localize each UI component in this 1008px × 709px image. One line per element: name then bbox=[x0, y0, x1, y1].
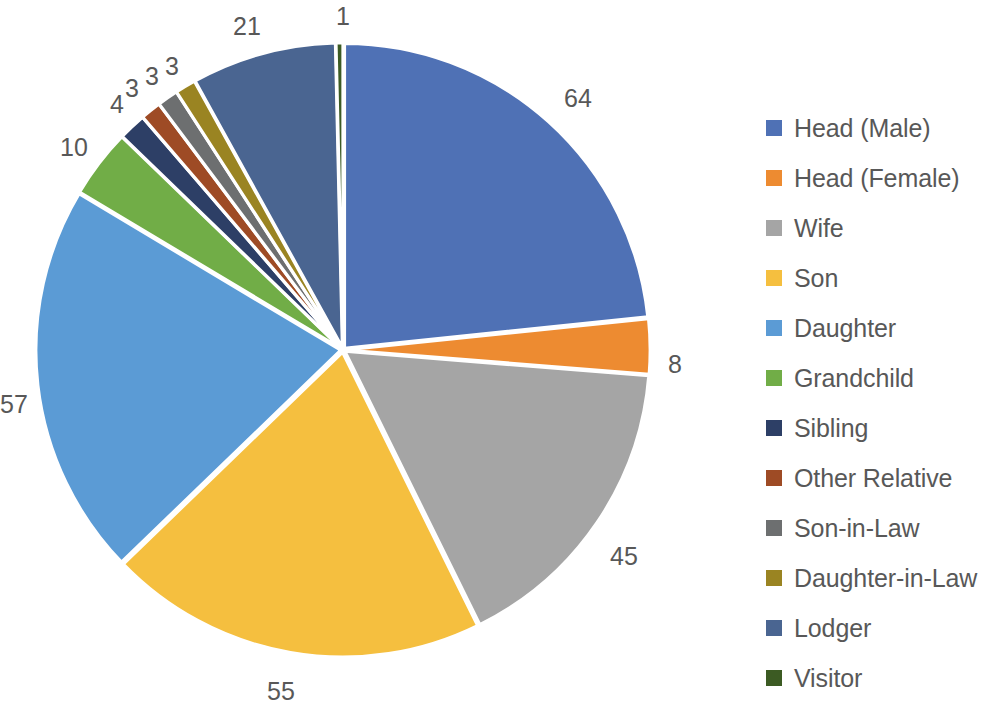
pie-data-label: 57 bbox=[0, 392, 28, 417]
pie-data-label: 3 bbox=[125, 76, 139, 101]
legend-swatch-icon bbox=[766, 570, 782, 586]
legend-item-label: Sibling bbox=[794, 414, 868, 443]
legend-item-label: Daughter bbox=[794, 314, 896, 343]
pie-data-label: 8 bbox=[668, 352, 682, 377]
legend-item-label: Head (Male) bbox=[794, 114, 930, 143]
legend-item-label: Grandchild bbox=[794, 364, 914, 393]
pie-data-label: 3 bbox=[145, 64, 159, 89]
legend-item-label: Son-in-Law bbox=[794, 514, 919, 543]
pie-data-label: 1 bbox=[336, 4, 350, 29]
pie-data-label: 64 bbox=[564, 86, 592, 111]
legend-item[interactable]: Head (Female) bbox=[766, 153, 1008, 203]
legend-item-label: Son bbox=[794, 264, 838, 293]
pie-data-label: 3 bbox=[165, 54, 179, 79]
legend-swatch-icon bbox=[766, 420, 782, 436]
legend-swatch-icon bbox=[766, 170, 782, 186]
pie-data-label: 4 bbox=[110, 92, 124, 117]
legend-swatch-icon bbox=[766, 120, 782, 136]
legend-swatch-icon bbox=[766, 320, 782, 336]
legend-item-label: Other Relative bbox=[794, 464, 952, 493]
legend-item[interactable]: Sibling bbox=[766, 403, 1008, 453]
legend-item[interactable]: Grandchild bbox=[766, 353, 1008, 403]
legend-item[interactable]: Son-in-Law bbox=[766, 503, 1008, 553]
pie-data-label: 55 bbox=[267, 679, 295, 704]
legend-item[interactable]: Daughter bbox=[766, 303, 1008, 353]
legend-swatch-icon bbox=[766, 220, 782, 236]
legend-item[interactable]: Other Relative bbox=[766, 453, 1008, 503]
legend-swatch-icon bbox=[766, 370, 782, 386]
legend-item[interactable]: Son bbox=[766, 253, 1008, 303]
legend-swatch-icon bbox=[766, 520, 782, 536]
legend-swatch-icon bbox=[766, 620, 782, 636]
legend-item-label: Head (Female) bbox=[794, 164, 959, 193]
legend-swatch-icon bbox=[766, 670, 782, 686]
chart-legend: Head (Male)Head (Female)WifeSonDaughterG… bbox=[766, 103, 1008, 703]
pie-slice bbox=[344, 43, 647, 348]
legend-swatch-icon bbox=[766, 470, 782, 486]
pie-data-label: 21 bbox=[233, 14, 261, 39]
pie-chart: 648455557104333211 Head (Male)Head (Fema… bbox=[0, 0, 1008, 709]
pie-slices bbox=[36, 43, 650, 657]
legend-item[interactable]: Visitor bbox=[766, 653, 1008, 703]
legend-item-label: Wife bbox=[794, 214, 844, 243]
legend-item-label: Visitor bbox=[794, 664, 862, 693]
legend-item[interactable]: Lodger bbox=[766, 603, 1008, 653]
legend-item-label: Lodger bbox=[794, 614, 871, 643]
pie-data-label: 10 bbox=[60, 135, 88, 160]
legend-item[interactable]: Head (Male) bbox=[766, 103, 1008, 153]
legend-item[interactable]: Wife bbox=[766, 203, 1008, 253]
legend-item[interactable]: Daughter-in-Law bbox=[766, 553, 1008, 603]
pie-data-label: 45 bbox=[610, 544, 638, 569]
legend-item-label: Daughter-in-Law bbox=[794, 564, 977, 593]
legend-swatch-icon bbox=[766, 270, 782, 286]
